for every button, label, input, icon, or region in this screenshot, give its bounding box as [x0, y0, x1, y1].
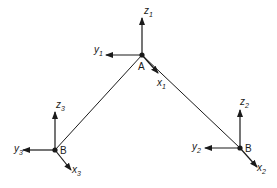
node-a-label: A [138, 61, 145, 72]
member-a-b-right [142, 55, 240, 148]
node-b-left-frame: z3 y3 x3 B [13, 99, 81, 177]
z1-label: z1 [143, 5, 153, 18]
y2-label: y2 [191, 141, 201, 154]
node-b-left-point [52, 147, 57, 152]
x1-label: x1 [156, 77, 166, 90]
node-b-right-label: B [245, 143, 252, 154]
node-a-point [139, 52, 144, 57]
diagram-canvas: z1 y1 x1 A z3 y3 x3 B z2 y2 x2 B [0, 0, 277, 188]
node-a-frame: z1 y1 x1 A [93, 5, 166, 90]
y1-label: y1 [93, 44, 103, 57]
node-b-right-frame: z2 y2 x2 B [191, 96, 266, 175]
node-b-left-label: B [60, 145, 67, 156]
z3-label: z3 [55, 99, 65, 112]
x2-label: x2 [256, 162, 266, 175]
member-a-b-left [55, 55, 142, 150]
y3-label: y3 [13, 143, 23, 156]
z2-label: z2 [239, 96, 249, 109]
node-b-right-point [237, 145, 242, 150]
x3-label: x3 [71, 164, 81, 177]
